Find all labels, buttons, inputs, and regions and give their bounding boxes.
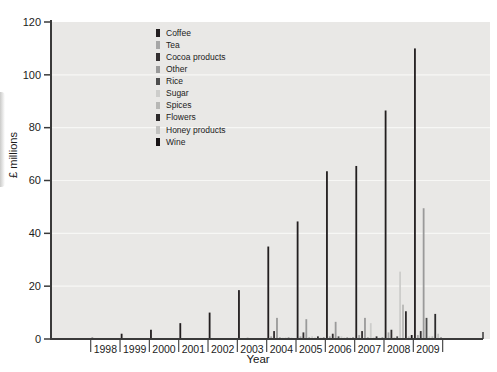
legend-label-honey-products: Honey products bbox=[166, 126, 226, 135]
legend-swatch-cocoa-products bbox=[156, 53, 160, 61]
y-tick-label-100: 100 bbox=[23, 69, 41, 81]
chart-legend: CoffeeTeaCocoa productsOtherRiceSugarSpi… bbox=[156, 27, 226, 148]
legend-item-spices: Spices bbox=[156, 100, 226, 112]
x-tick-label-2000: 2000 bbox=[152, 343, 176, 355]
x-axis-title: Year bbox=[228, 353, 288, 366]
bar-2007-other bbox=[364, 318, 366, 339]
bar-2009-coffee bbox=[414, 48, 416, 339]
legend-item-sugar: Sugar bbox=[156, 87, 226, 99]
x-tick-label-2009: 2009 bbox=[416, 343, 440, 355]
x-tick-label-2008: 2008 bbox=[387, 343, 411, 355]
legend-swatch-other bbox=[156, 66, 160, 74]
legend-label-flowers: Flowers bbox=[166, 113, 196, 122]
y-tick-label-40: 40 bbox=[29, 227, 41, 239]
legend-swatch-sugar bbox=[156, 90, 160, 98]
chart-canvas: 1998199920002001200220032004200520062007… bbox=[0, 0, 497, 372]
legend-label-coffee: Coffee bbox=[166, 29, 191, 38]
bar-2009-other bbox=[423, 208, 425, 339]
legend-label-other: Other bbox=[166, 65, 187, 74]
bar-2004-coffee bbox=[267, 247, 269, 339]
bar-2007-cocoa-products bbox=[361, 331, 363, 339]
bar-2000-coffee bbox=[150, 330, 152, 339]
legend-label-rice: Rice bbox=[166, 77, 183, 86]
legend-label-wine: Wine bbox=[166, 138, 185, 147]
y-tick-label-80: 80 bbox=[29, 121, 41, 133]
bar-2001-coffee bbox=[179, 323, 181, 339]
y-tick-label-60: 60 bbox=[29, 174, 41, 186]
legend-item-flowers: Flowers bbox=[156, 112, 226, 124]
y-axis-title: £ millions bbox=[7, 125, 21, 185]
bar-2008-coffee bbox=[385, 111, 387, 340]
y-tick-label-20: 20 bbox=[29, 280, 41, 292]
legend-swatch-spices bbox=[156, 102, 160, 110]
bar-2006-other bbox=[335, 322, 337, 339]
bar-2008-flowers bbox=[405, 311, 407, 339]
x-tick-label-1999: 1999 bbox=[123, 343, 147, 355]
x-tick-label-1998: 1998 bbox=[94, 343, 118, 355]
legend-swatch-honey-products bbox=[156, 126, 160, 134]
legend-swatch-coffee bbox=[156, 29, 160, 37]
bar-2007-sugar bbox=[370, 323, 372, 339]
bar-2007-coffee bbox=[355, 166, 357, 339]
bar-2009-rice bbox=[426, 318, 428, 339]
bar-2008-spices bbox=[402, 305, 404, 339]
legend-swatch-tea bbox=[156, 41, 160, 49]
bar-2004-cocoa-products bbox=[273, 331, 275, 339]
x-tick-label-2005: 2005 bbox=[299, 343, 323, 355]
legend-label-cocoa-products: Cocoa products bbox=[166, 53, 226, 62]
legend-label-spices: Spices bbox=[166, 101, 192, 110]
bar-2006-coffee bbox=[326, 171, 328, 339]
legend-swatch-rice bbox=[156, 78, 160, 86]
legend-label-tea: Tea bbox=[166, 41, 180, 50]
bar-2009-flowers bbox=[434, 314, 436, 339]
bar-2009-cocoa-products bbox=[420, 331, 422, 339]
y-tick-label-120: 120 bbox=[23, 16, 41, 28]
bar-2002-coffee bbox=[209, 313, 211, 339]
bar-2008-cocoa-products bbox=[391, 330, 393, 339]
bar-2003-coffee bbox=[238, 290, 240, 339]
legend-swatch-wine bbox=[156, 138, 160, 146]
legend-item-wine: Wine bbox=[156, 136, 226, 148]
legend-item-rice: Rice bbox=[156, 75, 226, 87]
x-tick-label-2001: 2001 bbox=[182, 343, 206, 355]
bar-2004-other bbox=[276, 318, 278, 339]
x-tick-label-2006: 2006 bbox=[328, 343, 352, 355]
y-tick-label-0: 0 bbox=[35, 333, 41, 345]
legend-label-sugar: Sugar bbox=[166, 89, 189, 98]
bar-2005-coffee bbox=[297, 221, 299, 339]
legend-swatch-flowers bbox=[156, 114, 160, 122]
x-tick-label-2007: 2007 bbox=[358, 343, 382, 355]
fairtrade-sales-bar-chart: 1998199920002001200220032004200520062007… bbox=[0, 0, 497, 372]
legend-item-honey-products: Honey products bbox=[156, 124, 226, 136]
legend-item-coffee: Coffee bbox=[156, 27, 226, 39]
bar-2008-sugar bbox=[399, 272, 401, 339]
legend-item-other: Other bbox=[156, 63, 226, 75]
bar-2005-other bbox=[305, 319, 307, 339]
legend-item-tea: Tea bbox=[156, 39, 226, 51]
legend-item-cocoa-products: Cocoa products bbox=[156, 51, 226, 63]
